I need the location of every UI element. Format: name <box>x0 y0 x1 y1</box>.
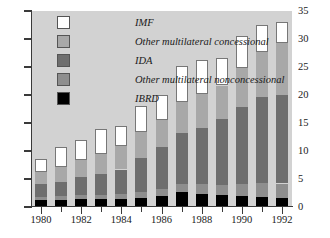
bar-segment <box>276 184 288 199</box>
bar-top-outline <box>95 129 107 154</box>
y-tick-label: 30 <box>298 34 309 44</box>
x-tick <box>222 207 223 212</box>
x-tick-label: 1990 <box>222 214 262 225</box>
bar-segment <box>156 120 168 147</box>
bar-segment <box>256 183 268 196</box>
bar-segment <box>156 189 168 196</box>
bar-top-outline <box>55 147 67 167</box>
y-tick <box>24 66 32 68</box>
legend-swatch-omn <box>57 73 70 86</box>
x-tick <box>81 207 82 214</box>
bar-segment <box>196 194 208 207</box>
bar-segment <box>35 184 47 197</box>
bar-segment <box>35 172 47 184</box>
bar-segment <box>176 133 188 184</box>
y-tick-label: 0 <box>298 202 303 212</box>
bar-segment <box>276 43 288 95</box>
bar-segment <box>95 154 107 174</box>
bar-segment <box>156 147 168 189</box>
legend-label-ibrd: IBRD <box>135 93 159 104</box>
bar-segment <box>55 182 67 197</box>
bar-segment <box>115 170 127 195</box>
legend-swatch-omc <box>57 35 70 48</box>
bar-segment <box>115 146 127 170</box>
bar-segment <box>95 174 107 195</box>
bar-segment <box>196 128 208 184</box>
bar-segment <box>256 97 268 183</box>
legend-label-omc: Other multilateral concessional <box>135 36 269 47</box>
x-tick-label: 1982 <box>61 214 101 225</box>
y-tick-label: 15 <box>298 118 309 128</box>
x-tick <box>141 207 142 212</box>
y-tick <box>24 38 32 40</box>
y-tick <box>24 122 32 124</box>
bar-segment <box>176 192 188 207</box>
y-tick <box>24 178 32 180</box>
bar-segment <box>135 192 147 198</box>
bar-1984 <box>115 11 127 207</box>
bar-segment <box>216 185 228 196</box>
x-tick <box>182 207 183 212</box>
bar-segment <box>55 167 67 182</box>
x-tick-label: 1992 <box>262 214 302 225</box>
legend-label-omn: Other multilateral nonconcessional <box>135 74 284 85</box>
y-tick <box>24 150 32 152</box>
x-tick <box>202 207 203 214</box>
x-tick <box>262 207 263 212</box>
y-tick-label: 20 <box>298 90 309 100</box>
bar-1982 <box>75 11 87 207</box>
legend-label-ida: IDA <box>135 55 153 66</box>
bar-1983 <box>95 11 107 207</box>
x-tick <box>282 207 283 214</box>
legend-swatch-ibrd <box>57 92 70 105</box>
y-tick-label: 25 <box>298 62 309 72</box>
x-tick <box>61 207 62 212</box>
bar-segment <box>95 195 107 199</box>
bar-segment <box>176 184 188 192</box>
y-tick-label: 35 <box>298 6 309 16</box>
x-tick <box>162 207 163 214</box>
y-tick <box>24 206 32 208</box>
bar-segment <box>216 86 228 120</box>
bar-segment <box>135 158 147 192</box>
bar-segment <box>55 196 67 199</box>
x-tick-label: 1986 <box>142 214 182 225</box>
x-tick-label: 1984 <box>101 214 141 225</box>
y-tick <box>24 94 32 96</box>
bar-top-outline <box>276 22 288 43</box>
bar-segment <box>35 197 47 200</box>
y-tick-label: 10 <box>298 146 309 156</box>
y-tick <box>24 10 32 12</box>
bar-segment <box>135 132 147 158</box>
bar-segment <box>115 194 127 199</box>
bar-segment <box>75 160 87 177</box>
bar-segment <box>236 107 248 184</box>
x-tick <box>242 207 243 214</box>
bar-top-outline <box>75 140 87 160</box>
bar-segment <box>75 177 87 195</box>
bar-segment <box>196 94 208 128</box>
x-tick <box>41 207 42 214</box>
x-tick <box>101 207 102 212</box>
bar-segment <box>176 102 188 133</box>
bar-segment <box>236 184 248 196</box>
y-tick-label: 5 <box>298 174 303 184</box>
bar-top-outline <box>135 106 147 132</box>
legend-label-imf: IMF <box>135 17 154 28</box>
chart-container: 05101520253035 1980198219841986198819901… <box>0 0 330 238</box>
bar-top-outline <box>35 159 47 172</box>
bar-1992 <box>276 11 288 207</box>
x-tick <box>121 207 122 214</box>
bar-segment <box>196 184 208 194</box>
bar-segment <box>276 95 288 183</box>
x-tick-label: 1980 <box>21 214 61 225</box>
legend-swatch-imf <box>57 16 70 29</box>
x-tick-label: 1988 <box>182 214 222 225</box>
bar-segment <box>216 119 228 185</box>
bar-1980 <box>35 11 47 207</box>
bar-top-outline <box>115 126 127 146</box>
bar-segment <box>75 195 87 199</box>
legend-swatch-ida <box>57 54 70 67</box>
